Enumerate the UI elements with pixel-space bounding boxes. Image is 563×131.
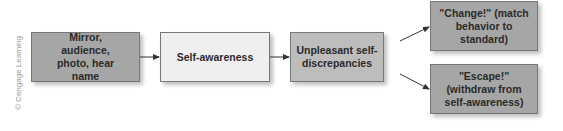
flow-arrows <box>0 0 563 131</box>
arrow-to-change <box>400 27 429 41</box>
arrow-to-escape <box>400 74 429 89</box>
